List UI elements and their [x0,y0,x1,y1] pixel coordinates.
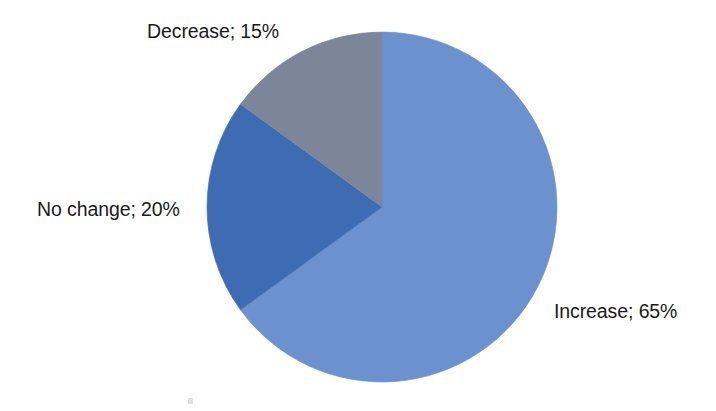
pie-slice-group [207,32,557,382]
scan-artifact-speck [188,398,193,404]
pie-chart-figure: Decrease; 15% No change; 20% Increase; 6… [0,0,716,411]
pie-label-no-change: No change; 20% [37,198,180,220]
pie-label-decrease: Decrease; 15% [147,20,279,42]
pie-label-increase: Increase; 65% [554,300,677,322]
